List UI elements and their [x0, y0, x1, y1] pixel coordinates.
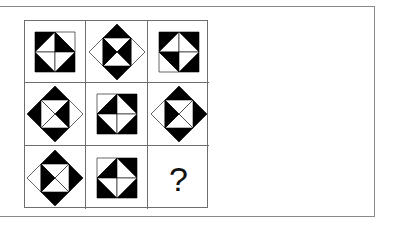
- square-diamond-figure: [158, 31, 200, 73]
- grid-cell-r1-c2: [148, 83, 209, 146]
- square-diamond-figure: [96, 157, 138, 199]
- grid-cell-r1-c1: [86, 83, 148, 146]
- diamond-square-figure: [88, 23, 146, 81]
- puzzle-grid: ?: [24, 20, 208, 208]
- grid-cell-r2-c0: [25, 146, 86, 209]
- question-mark: ?: [169, 162, 188, 196]
- grid-cell-r1-c0: [25, 83, 86, 146]
- grid-cell-r2-c2[interactable]: ?: [148, 146, 209, 209]
- diamond-square-figure: [150, 85, 208, 143]
- diamond-square-figure: [26, 149, 84, 207]
- square-diamond-figure: [34, 31, 76, 73]
- grid-cell-r0-c2: [148, 21, 209, 83]
- grid-cell-r0-c0: [25, 21, 86, 83]
- square-diamond-figure: [96, 93, 138, 135]
- grid-cell-r0-c1: [86, 21, 148, 83]
- grid-cell-r2-c1: [86, 146, 148, 209]
- diamond-square-figure: [26, 85, 84, 143]
